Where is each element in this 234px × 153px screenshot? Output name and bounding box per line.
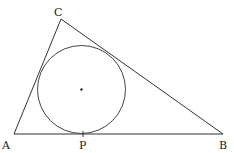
tangent-point-label-p: P — [79, 139, 87, 152]
vertex-label-c: C — [54, 6, 62, 19]
side-cb — [61, 19, 223, 134]
vertex-label-b: B — [219, 139, 227, 152]
triangle-incircle-diagram: C A B P — [0, 0, 234, 153]
vertex-label-a: A — [1, 139, 11, 152]
side-ac — [14, 19, 61, 134]
triangle — [14, 19, 223, 134]
incircle-center-dot — [80, 88, 82, 90]
